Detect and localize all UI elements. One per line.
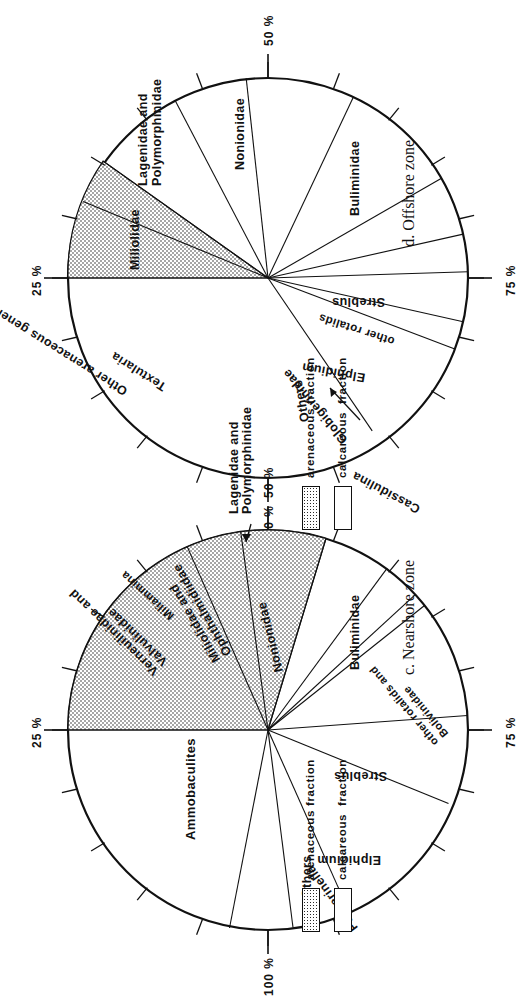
- nearshore-tick-75: 75 %: [504, 717, 518, 748]
- nearshore-label-lagenidae: Lagenidae and Polymorphinidae: [228, 407, 254, 514]
- nearshore-tick-50: 50 %: [262, 467, 276, 498]
- calcareous-legend-label: calcareous: [336, 412, 348, 478]
- arenaceous-legend-label: arenaceous: [304, 408, 316, 478]
- arenaceous-legend-label: arenaceous: [304, 810, 316, 880]
- calcareous-legend-fraction: fraction: [336, 759, 348, 806]
- offshore-label-lagenidae-text: Lagenidae and Polymorphinidae: [136, 66, 164, 186]
- offshore-pie-panel: Textularia Other arenaceous genera Milio…: [8, 18, 520, 538]
- arenaceous-swatch: [302, 486, 320, 530]
- nearshore-tick-25: 25 %: [30, 717, 44, 748]
- offshore-label-streblus: Streblus: [332, 295, 385, 309]
- arenaceous-legend-fraction: fraction: [304, 759, 316, 806]
- nearshore-tick-100: 100 %: [262, 957, 276, 996]
- nearshore-pie-panel: Ammobaculites Verneuilinidae and Valvuli…: [8, 470, 520, 990]
- arenaceous-swatch: [302, 888, 320, 932]
- offshore-label-miliolidae: Miliolidae: [128, 209, 142, 270]
- arenaceous-legend-fraction: fraction: [304, 357, 316, 404]
- offshore-label-buliminidae: Buliminidae: [348, 141, 362, 216]
- nearshore-legend: arenaceous fraction calcareous fraction: [296, 742, 406, 932]
- offshore-label-nonionidae: Nonionidae: [233, 98, 247, 170]
- calcareous-legend-fraction: fraction: [336, 357, 348, 404]
- offshore-label-lagenidae: Lagenidae and Polymorphinidae: [136, 66, 164, 186]
- calcareous-legend-label: calcareous: [336, 814, 348, 880]
- offshore-tick-50: 50 %: [262, 15, 276, 46]
- calcareous-swatch: [334, 888, 352, 932]
- nearshore-label-ammobaculites: Ammobaculites: [183, 738, 198, 840]
- offshore-tick-25: 25 %: [30, 265, 44, 296]
- offshore-caption: d. Offshore zone: [400, 140, 418, 247]
- nearshore-caption: c. Nearshore zone: [400, 560, 418, 675]
- nearshore-label-lagenidae-text: Lagenidae and Polymorphinidae: [228, 407, 254, 514]
- offshore-tick-75: 75 %: [504, 265, 518, 296]
- offshore-pie-svg: [8, 18, 520, 538]
- offshore-pie: [8, 18, 520, 538]
- calcareous-swatch: [334, 486, 352, 530]
- offshore-legend: arenaceous fraction calcareous fraction: [296, 340, 406, 530]
